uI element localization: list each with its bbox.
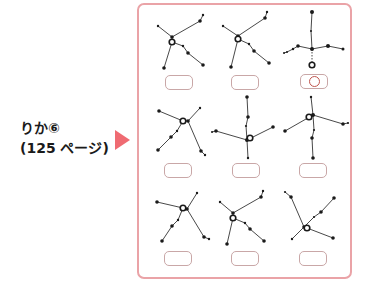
constellation-5 <box>212 97 273 158</box>
answer-box-2[interactable] <box>231 75 259 90</box>
answer-box-6[interactable] <box>299 163 327 178</box>
constellation-1 <box>158 15 203 68</box>
answer-box-1[interactable] <box>165 75 193 90</box>
circle-mark-icon <box>309 76 320 87</box>
answer-box-4[interactable] <box>164 163 192 178</box>
constellation-9 <box>285 192 334 239</box>
constellation-4 <box>158 108 205 155</box>
constellation-8 <box>220 191 264 244</box>
answer-box-8[interactable] <box>231 251 259 266</box>
constellation-drawings <box>0 0 370 288</box>
constellation-2 <box>223 12 269 67</box>
answer-box-9[interactable] <box>299 251 327 266</box>
answer-box-3[interactable] <box>300 74 328 89</box>
answer-box-7[interactable] <box>164 251 192 266</box>
constellation-3 <box>284 12 343 65</box>
answer-box-5[interactable] <box>232 163 260 178</box>
constellation-6 <box>285 97 348 158</box>
constellation-7 <box>157 193 209 241</box>
